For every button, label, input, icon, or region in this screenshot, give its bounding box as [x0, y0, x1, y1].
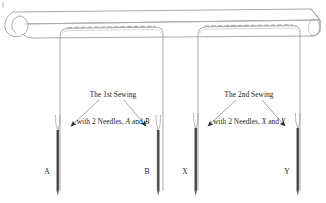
annotation-second-sewing-line1: The 2nd Sewing	[199, 91, 299, 100]
needle-b-tip	[157, 190, 160, 196]
needle-label-x: X	[178, 168, 192, 177]
sewing-diagram-figure: The 1st Sewing with 2 Needles, A and B T…	[0, 0, 326, 203]
annotation-second-sewing: The 2nd Sewing with 2 Needles, X and Y	[199, 74, 299, 144]
annotation-second-sewing-needle2: Y	[281, 117, 285, 126]
needle-a-eye	[55, 115, 60, 131]
needle-a-shaft	[56, 130, 59, 190]
annotation-first-sewing-prefix: with 2 Needles,	[77, 117, 126, 126]
needle-label-y: Y	[280, 168, 294, 177]
annotation-first-sewing-line2: with 2 Needles, A and B	[63, 118, 163, 127]
needle-y-tip	[296, 190, 299, 196]
annotation-first-sewing-line1: The 1st Sewing	[63, 91, 163, 100]
needle-x	[193, 113, 198, 196]
needle-x-tip	[194, 190, 197, 196]
needle-x-eye	[193, 113, 198, 129]
annotation-first-sewing-needle2: B	[145, 117, 150, 126]
needle-a-tip	[56, 190, 59, 196]
needle-label-b: B	[140, 168, 154, 177]
needle-a	[55, 115, 60, 196]
fabric-tube	[5, 9, 320, 38]
annotation-first-sewing-conjunction: and	[130, 117, 145, 126]
needle-x-shaft	[194, 128, 197, 190]
annotation-second-sewing-conjunction: and	[266, 117, 281, 126]
annotation-second-sewing-prefix: with 2 Needles,	[213, 117, 262, 126]
needle-label-a: A	[40, 168, 54, 177]
annotation-first-sewing: The 1st Sewing with 2 Needles, A and B	[63, 74, 163, 144]
annotation-second-sewing-line2: with 2 Needles, X and Y	[199, 118, 299, 127]
